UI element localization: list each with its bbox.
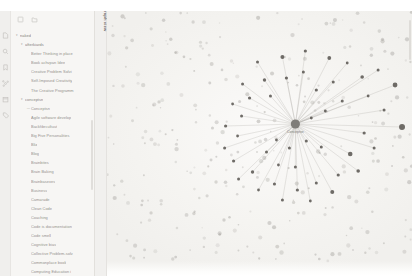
graph-node: [269, 95, 272, 98]
graph-node: [309, 200, 312, 203]
graph-node: [288, 147, 291, 150]
graph-node: [373, 147, 376, 150]
graph-canvas-wrap[interactable]: Conceptsn: [107, 0, 412, 276]
bookmark-icon[interactable]: [2, 64, 9, 71]
tree-file[interactable]: Clean Code: [14, 204, 92, 213]
tree-file[interactable]: Brainbites: [14, 158, 92, 167]
tree-item-label: Coaching: [31, 213, 48, 222]
graph-node: [237, 178, 240, 181]
tree-item-label: Bliz: [31, 140, 37, 149]
graph-node: [341, 100, 344, 103]
graph-node: [327, 56, 331, 60]
graph-nodes: [223, 49, 405, 202]
graph-node: [399, 124, 405, 130]
tree-file[interactable]: Business: [14, 186, 92, 195]
tree-item-label: Camarade: [31, 195, 50, 204]
graph-node: [236, 135, 239, 138]
tree-file[interactable]: Collective Problem-solv: [14, 249, 92, 258]
tree-file[interactable]: Big Five Personalities: [14, 131, 92, 140]
tree-file[interactable]: Better Thinking in place: [14, 49, 92, 58]
new-folder-icon[interactable]: [31, 16, 38, 23]
tree-file[interactable]: —Conceptsn: [14, 104, 92, 113]
tree-file[interactable]: Brainbasexes: [14, 177, 92, 186]
graph-node: [275, 139, 278, 142]
graph-scrollbar[interactable]: [409, 20, 411, 60]
tree-file[interactable]: The Creative Programm: [14, 86, 92, 95]
tree-item-label: The Creative Programm: [31, 86, 74, 95]
file-tree[interactable]: ▾naked▾afterkiardsBetter Thinking in pla…: [11, 28, 94, 276]
graph-node: [265, 151, 268, 154]
tree-item-label: naked: [20, 31, 31, 40]
graph-node: [356, 169, 360, 173]
tree-file[interactable]: Creative Problem Solvi: [14, 67, 92, 76]
tree-file[interactable]: Cognitive bias: [14, 240, 92, 249]
tree-item-label: Agile software develop: [31, 113, 71, 122]
graph-node: [363, 131, 366, 134]
graph-node: [280, 55, 284, 59]
tree-file[interactable]: Agile software develop: [14, 113, 92, 122]
tree-item-label: Blog: [31, 149, 39, 158]
graph-node: [251, 170, 254, 173]
graph-node: [223, 147, 226, 150]
graph-node: [324, 110, 327, 113]
graph-node: [302, 71, 305, 74]
tree-item-label: Big Five Personalities: [31, 131, 70, 140]
tree-item-label: conceptsn: [25, 95, 43, 104]
tree-file[interactable]: Blog: [14, 149, 92, 158]
tree-item-label: Code is documentation: [31, 222, 72, 231]
new-note-icon[interactable]: [17, 16, 24, 23]
canvas-bottom-fade: [107, 261, 412, 276]
tree-file[interactable]: Bliz: [14, 140, 92, 149]
obsidian-window: ▾naked▾afterkiardsBetter Thinking in pla…: [0, 0, 412, 276]
graph-node: [393, 83, 398, 88]
window-titlebar: [0, 0, 412, 11]
tree-file[interactable]: Computing Education i: [14, 267, 92, 276]
graph-node: [273, 182, 276, 185]
tree-folder[interactable]: ▾afterkiards: [14, 40, 92, 49]
left-ribbon[interactable]: [0, 0, 11, 276]
graph-node: [224, 124, 227, 127]
graph-node: [240, 115, 243, 118]
graph-node: [337, 173, 340, 176]
tree-file[interactable]: Camarade: [14, 195, 92, 204]
tree-item-label: Brain Baking: [31, 167, 54, 176]
tree-item-label: Conceptsn: [31, 104, 50, 113]
graph-svg: [107, 0, 412, 276]
sidebar-scrollbar[interactable]: [91, 120, 93, 190]
graph-node: [277, 164, 280, 167]
tree-item-label: Cognitive bias: [31, 240, 56, 249]
tree-folder[interactable]: ▾naked: [14, 31, 92, 40]
graph-node: [383, 109, 386, 112]
graph-node: [305, 140, 308, 143]
tree-file[interactable]: Brain Baking: [14, 167, 92, 176]
graph-node: [367, 95, 370, 98]
graph-node: [231, 103, 234, 106]
search-icon[interactable]: [2, 48, 9, 55]
graph-node: [281, 199, 284, 202]
tree-folder[interactable]: ▾conceptsn: [14, 95, 92, 104]
hub-node: [291, 119, 300, 128]
graph-node: [263, 78, 266, 81]
tree-file[interactable]: Backfibrcultuut: [14, 122, 92, 131]
graph-node: [346, 62, 349, 65]
tree-item-label: Creative Problem Solvi: [31, 67, 72, 76]
graph-node: [285, 76, 288, 79]
files-icon[interactable]: [2, 32, 9, 39]
file-explorer-sidebar: ▾naked▾afterkiardsBetter Thinking in pla…: [11, 0, 95, 276]
tree-item-label: Collective Problem-solv: [31, 249, 73, 258]
tree-item-label: Brainbites: [31, 158, 49, 167]
tag-icon[interactable]: [2, 112, 9, 119]
graph-canvas[interactable]: [107, 0, 412, 276]
tree-file[interactable]: Book achvpan Idee: [14, 58, 92, 67]
tree-file[interactable]: Self-Imposed Creativity: [14, 76, 92, 85]
tree-file[interactable]: Code is documentation: [14, 222, 92, 231]
calendar-icon[interactable]: [2, 96, 9, 103]
graph-edges: [225, 51, 402, 201]
tree-item-label: Code smell: [31, 231, 51, 240]
graph-node: [320, 146, 323, 149]
tree-file[interactable]: Coaching: [14, 213, 92, 222]
graph-tab-strip[interactable]: Graph view: [95, 0, 107, 276]
tree-file[interactable]: Commonplace book: [14, 258, 92, 267]
graph-icon[interactable]: [2, 80, 9, 87]
tree-file[interactable]: Code smell: [14, 231, 92, 240]
